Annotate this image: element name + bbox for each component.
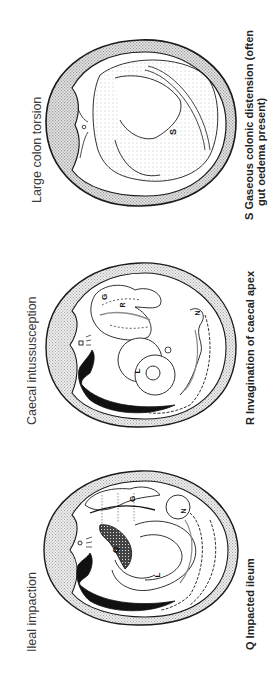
label-S: S [168,129,178,135]
panel-title-caecal-intussusception: Caecal intussusception [25,296,39,425]
panel-caption-caecal-intussusception: R Invagination of caecal apex [244,271,256,425]
label-N: N [180,508,187,513]
label-L: L [153,572,162,577]
panel-caption-ileal-impaction: Q Impacted ileum [244,558,256,650]
diagram-ileal-impaction: G Q L N [40,465,240,635]
panel-caption-large-colon-torsion: S Gaseous colonic distension (often gut … [243,30,267,220]
caption-line-1: S Gaseous colonic distension (often [243,30,255,220]
panel-title-ileal-impaction: Ileal impaction [25,572,39,652]
figure: Large colon torsion S Gaseous colonic di… [0,0,272,693]
label-N: N [194,310,201,315]
diagram-large-colon-torsion: S [40,30,240,210]
label-G: G [100,294,109,300]
label-G: G [128,496,137,502]
label-L: L [133,368,142,373]
caption-line-2: gut oedema present) [255,30,267,220]
label-R: R [119,302,126,307]
label-Q: Q [111,547,120,553]
diagram-caecal-intussusception: G R L N [40,255,240,435]
